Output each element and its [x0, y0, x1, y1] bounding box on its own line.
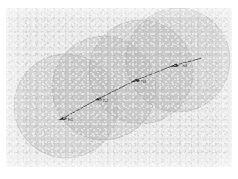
- coverage-circle: [126, 8, 230, 112]
- coverage-circle-group: [14, 8, 230, 158]
- waypoint-dot: [174, 64, 179, 67]
- waypoint-dot: [135, 79, 140, 82]
- figure-canvas: R1R2R3R4: [6, 8, 232, 167]
- figure-root: R1R2R3R4: [0, 0, 238, 179]
- waypoint-dot: [62, 117, 67, 120]
- waypoint-label: R3: [141, 79, 147, 84]
- plot-panel: R1R2R3R4: [6, 8, 232, 167]
- waypoint-dot: [97, 98, 102, 101]
- waypoint-label: R1: [68, 117, 74, 122]
- waypoint-label: R2: [103, 98, 109, 103]
- waypoint-label: R4: [182, 63, 188, 68]
